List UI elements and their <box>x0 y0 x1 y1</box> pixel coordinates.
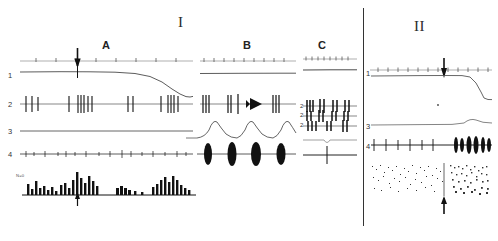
figure-canvas: I II A B C 1 2 3 4 2 2 2 1 3 4 N=0 <box>0 0 498 241</box>
timing-trace-group-I <box>20 48 357 68</box>
panel-B-traces <box>186 94 296 166</box>
traces-svg <box>0 0 498 241</box>
stimulus-arrow-histogram <box>75 192 80 206</box>
spike-histogram <box>22 172 196 206</box>
trace-1-group-I <box>20 64 357 97</box>
panel-C-traces <box>303 99 357 164</box>
trace-3-4-group-I-panelA <box>20 131 193 158</box>
group-II-traces <box>370 58 492 154</box>
stimulus-arrow-raster <box>441 163 447 214</box>
stimulus-arrow-group-II <box>441 58 447 78</box>
trace-2-group-I-panelA <box>20 95 193 113</box>
group-II-raster <box>372 163 489 214</box>
